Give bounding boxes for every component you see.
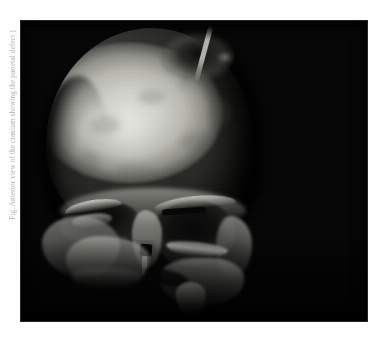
page-background: Fig. Anterior view of the cranium showin… (0, 0, 376, 345)
vault-mottle (180, 132, 214, 152)
margin-caption: Fig. Anterior view of the cranium showin… (6, 0, 20, 250)
vault-mottle (90, 116, 120, 134)
vault-mottle (116, 164, 156, 180)
lesion-rim-highlight (216, 50, 238, 66)
skull-image (20, 20, 368, 322)
vault-mottle (76, 152, 100, 174)
vault-mottle (208, 98, 230, 126)
vault-mottle (138, 90, 164, 104)
figure-panel (20, 20, 368, 322)
lower-shadow-fade (20, 242, 368, 322)
